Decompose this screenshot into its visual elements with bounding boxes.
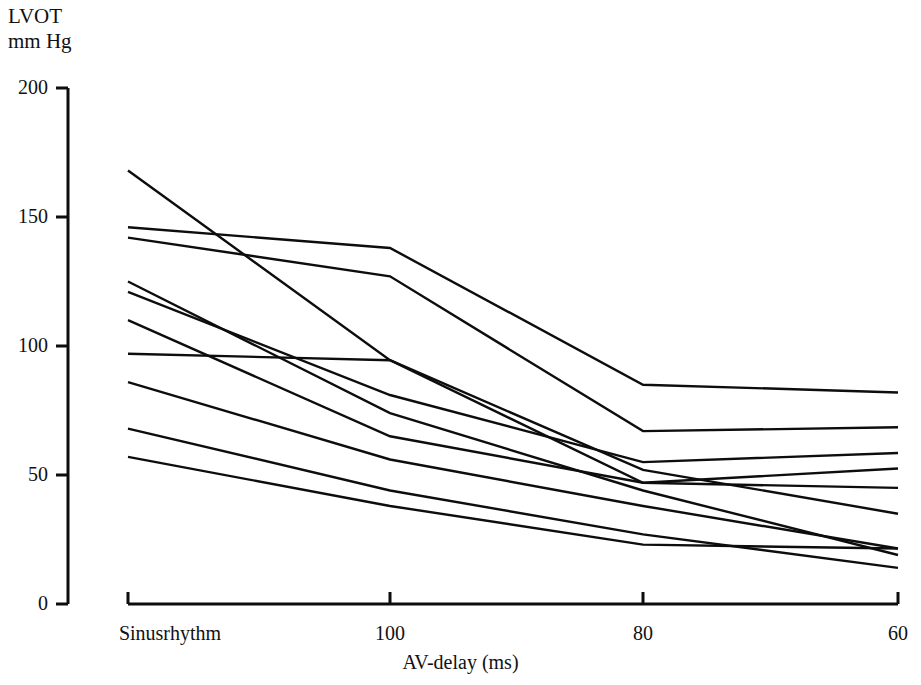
series-line [128,354,898,483]
series-line [128,282,898,555]
series-line [128,238,898,432]
chart-figure: LVOTmm Hg AV-delay (ms) 200 150 100 50 0… [0,0,921,685]
series-line [128,171,898,514]
series-group [128,171,898,568]
x-axis [128,592,898,604]
y-axis [56,88,68,604]
series-line [128,292,898,462]
series-line [128,227,898,392]
plot-area [0,0,921,685]
series-line [128,320,898,488]
series-line [128,457,898,549]
